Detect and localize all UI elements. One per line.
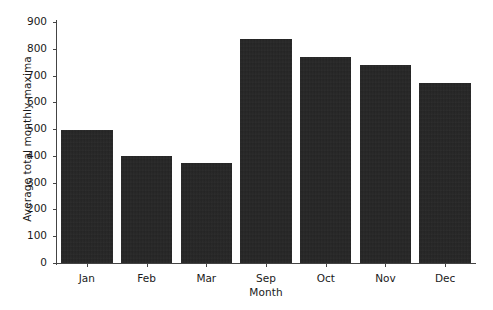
y-tick-label: 0 [40,257,47,268]
y-tick-label: 900 [27,16,47,27]
y-tick-mark [53,76,57,77]
y-tick-mark [53,129,57,130]
bar [360,65,411,263]
bar [419,83,470,263]
y-tick-mark [53,22,57,23]
bar [240,39,291,263]
x-tick-label: Jan [79,272,95,284]
x-axis-label: Month [57,286,475,298]
bar-chart-figure: Average total monthly maxima 01002003004… [0,0,493,310]
x-tick-label: Nov [375,272,396,284]
y-tick-mark [53,102,57,103]
bar [121,156,172,263]
y-tick-label: 400 [27,150,47,161]
y-tick-mark [53,236,57,237]
y-tick-mark [53,183,57,184]
y-tick-mark [53,156,57,157]
y-tick-label: 200 [27,203,47,214]
x-tick-label: Feb [137,272,156,284]
x-tick-mark [385,263,386,267]
y-tick-label: 600 [27,96,47,107]
plot-area: 0100200300400500600700800900 JanFebMarSe… [57,22,475,263]
x-tick-mark [147,263,148,267]
x-tick-mark [206,263,207,267]
bar [300,57,351,263]
x-tick-mark [445,263,446,267]
x-tick-label: Dec [435,272,455,284]
x-tick-mark [266,263,267,267]
y-tick-mark [53,263,57,264]
y-tick-label: 300 [27,177,47,188]
x-tick-mark [87,263,88,267]
y-tick-mark [53,49,57,50]
y-tick-label: 100 [27,230,47,241]
y-tick-label: 700 [27,70,47,81]
y-tick-label: 800 [27,43,47,54]
y-tick-label: 500 [27,123,47,134]
bar [61,130,112,263]
y-tick-mark [53,209,57,210]
x-tick-mark [326,263,327,267]
x-tick-label: Mar [196,272,216,284]
x-tick-label: Oct [317,272,335,284]
bar [181,163,232,263]
x-tick-label: Sep [256,272,276,284]
